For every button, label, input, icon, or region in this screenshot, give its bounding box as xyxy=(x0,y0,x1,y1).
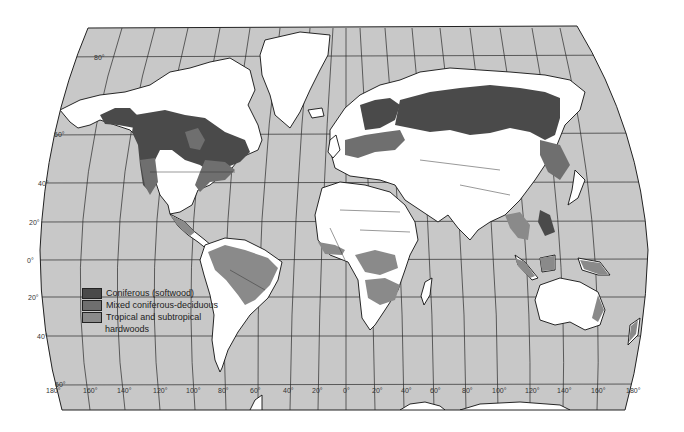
lat-label-0: 0° xyxy=(27,257,34,264)
lat-label-40s: 40° xyxy=(37,333,48,340)
lon-label-40w: 40° xyxy=(283,387,294,394)
lon-label-140w: 140° xyxy=(117,387,132,394)
lon-label-60w: 60° xyxy=(250,387,261,394)
legend-label: Coniferous (softwood) xyxy=(106,287,194,299)
lon-label-120e: 120° xyxy=(525,387,540,394)
lon-label-20e: 20° xyxy=(372,387,383,394)
lon-label-20w: 20° xyxy=(312,387,323,394)
lon-label-180w: 180° xyxy=(46,387,61,394)
lon-label-100w: 100° xyxy=(186,387,201,394)
lon-label-0: 0° xyxy=(343,387,350,394)
lon-label-120w: 120° xyxy=(153,387,168,394)
lon-label-180e: 180° xyxy=(626,387,641,394)
lon-label-80e: 80° xyxy=(462,387,473,394)
lon-label-140e: 140° xyxy=(557,387,572,394)
lon-label-160w: 160° xyxy=(83,387,98,394)
lon-label-80w: 80° xyxy=(218,387,229,394)
mixed-swatch xyxy=(82,300,102,311)
legend-label: Tropical and subtropical xyxy=(106,311,201,323)
world-forest-map: 80° 60° 40° 20° 0° 20° 40° 60° 180° 160°… xyxy=(0,0,684,432)
lon-label-60e: 60° xyxy=(430,387,441,394)
lat-label-80n: 80° xyxy=(94,54,105,61)
lat-label-20s: 20° xyxy=(28,294,39,301)
lon-label-40e: 40° xyxy=(401,387,412,394)
lat-label-40n: 40° xyxy=(38,180,49,187)
legend-item-coniferous: Coniferous (softwood) xyxy=(82,287,218,299)
legend-label: Mixed coniferous-deciduous xyxy=(106,299,218,311)
lon-label-160e: 160° xyxy=(591,387,606,394)
map-legend: Coniferous (softwood) Mixed coniferous-d… xyxy=(82,287,218,334)
legend-item-mixed: Mixed coniferous-deciduous xyxy=(82,299,218,311)
lat-label-60n: 60° xyxy=(54,131,65,138)
lat-label-20n: 20° xyxy=(29,219,40,226)
coniferous-swatch xyxy=(82,288,102,299)
legend-label-continuation: hardwoods xyxy=(82,323,218,334)
tropical-swatch xyxy=(82,312,102,323)
lon-label-100e: 100° xyxy=(492,387,507,394)
legend-item-tropical: Tropical and subtropical xyxy=(82,311,218,323)
